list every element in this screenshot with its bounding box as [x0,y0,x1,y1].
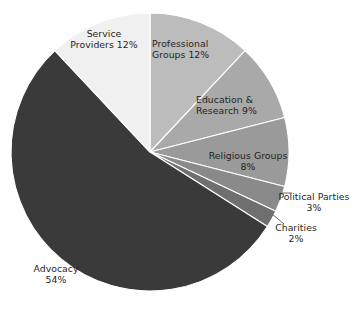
pie-chart: Service Providers 12% Professional Group… [0,0,362,310]
pie-chart-canvas [0,0,362,310]
pie-slices-group [11,13,289,291]
leader-line-charities [272,214,284,224]
